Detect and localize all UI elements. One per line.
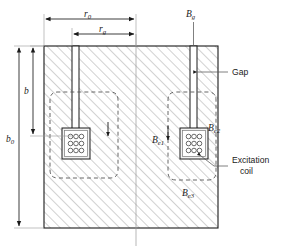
right-air-gap-slot [190,46,197,136]
dimension-b-label: b [24,86,29,96]
dimension-r0: r0 [44,9,136,46]
dimension-b0-label: b0 [6,134,15,145]
dimension-rg: rg [72,24,134,46]
callout-excitation-coil-line2: coil [240,166,253,176]
callout-excitation-coil-line1: Excitation [232,155,269,165]
dimension-rg-label: rg [99,24,107,35]
left-air-gap-slot [72,46,79,136]
callout-gap-text: Gap [232,67,248,77]
flux-label-bg-text: Bg [186,9,196,20]
dimension-b0: b0 [6,46,44,228]
left-excitation-coil [62,128,90,159]
figure-canvas: r0 rg b b0 Bg Gap [0,0,286,251]
flux-label-bg: Bg [186,9,196,46]
dimension-r0-label: r0 [84,9,92,20]
right-excitation-coil [180,128,208,159]
